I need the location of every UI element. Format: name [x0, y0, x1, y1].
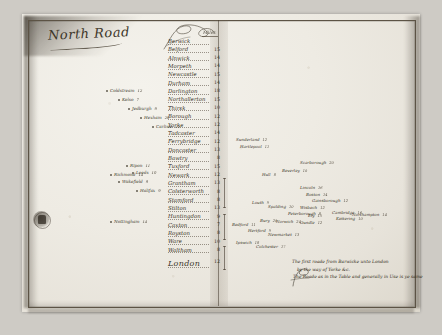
right-branch-label: Wisbech [300, 205, 317, 210]
terminal-leader-line [168, 267, 209, 268]
right-branch-label: Colchester [256, 244, 278, 249]
right-branch-annotation: Scarborough20 [300, 160, 334, 165]
leader-line [168, 202, 209, 203]
right-branch-label: Oundle [300, 220, 315, 225]
branch-miles: 12 [138, 88, 143, 93]
town-miles: 13 [210, 147, 220, 152]
town-miles: 8 [210, 230, 220, 235]
itinerary-row: Waltham8 [168, 247, 220, 255]
right-branch-label: Scarborough [300, 160, 326, 165]
branch-node-dot [136, 190, 138, 192]
itinerary-row: Stilton13 [168, 205, 220, 213]
right-branch-annotation: Louth9 [252, 200, 269, 205]
itinerary-row: Thirsk10 [168, 105, 220, 113]
town-miles: 7 [210, 222, 220, 227]
leader-line [168, 161, 209, 162]
itinerary-row: Stamford8 [168, 197, 220, 205]
town-miles: 8 [210, 247, 220, 252]
branch-label: Wakefield [122, 179, 143, 184]
right-branch-miles: 10 [303, 169, 308, 173]
right-branch-annotation: Hartlepool11 [240, 144, 269, 149]
town-miles: 14 [210, 55, 220, 60]
town-miles: 12 [210, 172, 220, 177]
leader-line [168, 236, 209, 237]
leader-line [168, 69, 209, 70]
right-branch-label: Ely [308, 213, 314, 218]
leader-line [168, 227, 209, 228]
branch-annotation: Kelso7 [118, 97, 139, 102]
right-branch-annotation: Newmarket13 [268, 232, 299, 237]
branch-label: Ripon [130, 163, 142, 168]
right-branch-annotation: Norwich24 [276, 219, 301, 224]
right-branch-annotation: Boston14 [306, 192, 328, 197]
branch-annotation: Hexham20 [140, 115, 170, 120]
town-miles: 10 [210, 105, 220, 110]
town-miles: 13 [210, 180, 220, 185]
branch-miles: 11 [145, 163, 150, 168]
right-branch-miles: 17 [281, 245, 286, 249]
right-branch-miles: 11 [251, 223, 256, 227]
leader-line [168, 169, 209, 170]
itinerary-row: Royston8 [168, 230, 220, 238]
right-branch-annotation: Sunderland12 [236, 137, 267, 142]
town-miles: 15 [210, 72, 220, 77]
branch-label: Coldstream [110, 88, 135, 93]
right-branch-label: Louth [252, 200, 264, 205]
branch-annotation: Halifax9 [136, 188, 161, 193]
manuscript-page: North Road Miles BerwickBelford15Alnwick… [0, 0, 442, 335]
branch-annotation: Ripon11 [126, 163, 150, 168]
right-branch-label: Bedford [232, 222, 248, 227]
branch-node-dot [152, 126, 154, 128]
branch-label: Kelso [122, 97, 134, 102]
town-miles: 8 [210, 197, 220, 202]
leader-line [168, 60, 209, 61]
branch-label: Nottingham [114, 219, 139, 224]
right-branch-miles: 12 [263, 138, 268, 142]
town-miles: 15 [210, 97, 220, 102]
right-branch-label: Sunderland [236, 137, 260, 142]
right-branch-miles: 14 [382, 213, 387, 217]
right-branch-miles: 8 [274, 173, 276, 177]
terminal-miles: 12 [210, 259, 220, 264]
itinerary-row: Ferrybridge12 [168, 138, 220, 146]
branch-node-dot [132, 172, 134, 174]
branch-annotation: Jedburgh9 [128, 106, 157, 111]
branch-annotation: Leeds10 [132, 170, 156, 175]
town-miles: 15 [210, 47, 220, 52]
right-branch-miles: 15 [317, 214, 322, 218]
branch-miles: 9 [155, 106, 157, 111]
right-branch-miles: 12 [344, 199, 349, 203]
itinerary-row: Ware10 [168, 238, 220, 246]
itinerary-row: Huntingdon9 [168, 213, 220, 221]
itinerary-row: Doncaster13 [168, 147, 220, 155]
town-miles: 14 [210, 130, 220, 135]
branch-label: Carlisle [156, 124, 172, 129]
itinerary-row: Caxton7 [168, 222, 220, 230]
town-miles: 8 [210, 155, 220, 160]
leader-line [168, 85, 209, 86]
branch-annotation: Wakefield9 [118, 179, 148, 184]
right-branch-annotation: Spalding10 [268, 204, 294, 209]
branch-label: Hexham [144, 115, 162, 120]
memo-line-1: The first roade from Barwicke unto Londo… [292, 258, 410, 266]
town-miles: 9 [210, 214, 220, 219]
right-branch-label: Hartlepool [240, 144, 262, 149]
branch-node-dot [110, 221, 112, 223]
town-miles: 8 [210, 189, 220, 194]
right-branch-annotation: Gainsborough12 [312, 198, 348, 203]
right-branch-label: Northampton [352, 212, 379, 217]
right-branch-annotation: Bury20 [260, 218, 277, 223]
right-branch-miles: 20 [329, 161, 334, 165]
right-branch-annotation: Beverley10 [282, 168, 307, 173]
right-branch-label: Hertford [248, 228, 266, 233]
town-miles: 15 [210, 164, 220, 169]
leader-line [168, 102, 209, 103]
itinerary-row: Berwick [168, 38, 220, 46]
right-branch-label: Hull [262, 172, 271, 177]
leader-line [168, 136, 209, 137]
town-miles: 13 [210, 205, 220, 210]
branch-node-dot [126, 165, 128, 167]
right-branch-label: Beverley [282, 168, 300, 173]
leader-line [168, 252, 209, 253]
itinerary-row: Tadcaster14 [168, 130, 220, 138]
